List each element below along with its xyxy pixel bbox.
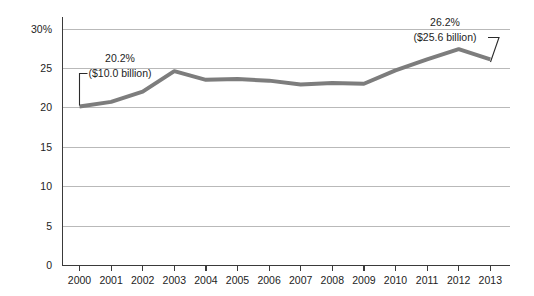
x-tick-label-2012: 2012 bbox=[447, 274, 471, 286]
end-callout-amount: ($25.6 billion) bbox=[413, 31, 476, 43]
y-tick-label-20: 20 bbox=[40, 101, 52, 113]
line-chart: 30% 25 20 15 10 5 0 2000 2001 2002 2003 … bbox=[0, 0, 534, 296]
x-tick-label-2009: 2009 bbox=[352, 274, 376, 286]
y-tick-label-25: 25 bbox=[40, 62, 52, 74]
x-tick-label-2004: 2004 bbox=[194, 274, 218, 286]
x-tick-label-2008: 2008 bbox=[321, 274, 345, 286]
y-tick-label-5: 5 bbox=[46, 220, 52, 232]
y-tick-label-15: 15 bbox=[40, 141, 52, 153]
start-callout-amount: ($10.0 billion) bbox=[88, 67, 151, 79]
end-callout-percent: 26.2% bbox=[430, 16, 460, 28]
x-tick-label-2005: 2005 bbox=[226, 274, 250, 286]
x-tick-label-2006: 2006 bbox=[257, 274, 281, 286]
x-tick-label-2011: 2011 bbox=[416, 274, 439, 286]
x-tick-label-2000: 2000 bbox=[68, 274, 92, 286]
y-tick-label-10: 10 bbox=[40, 180, 52, 192]
x-tick-label-2013: 2013 bbox=[479, 274, 503, 286]
x-tick-label-2002: 2002 bbox=[131, 274, 155, 286]
y-tick-label-30: 30% bbox=[31, 23, 52, 35]
y-tick-label-0: 0 bbox=[46, 259, 52, 271]
chart-canvas: 30% 25 20 15 10 5 0 2000 2001 2002 2003 … bbox=[0, 0, 534, 296]
x-tick-label-2001: 2001 bbox=[99, 274, 123, 286]
x-tick-label-2010: 2010 bbox=[384, 274, 408, 286]
x-tick-label-2003: 2003 bbox=[163, 274, 187, 286]
start-callout-percent: 20.2% bbox=[105, 52, 135, 64]
x-tick-label-2007: 2007 bbox=[289, 274, 313, 286]
